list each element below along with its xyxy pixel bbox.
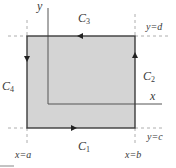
bound-label-bottom: y=c: [147, 132, 163, 142]
curve-label-c1: C1: [78, 140, 90, 154]
curve-label-c4: C4: [2, 80, 14, 94]
c1-subscript: 1: [86, 145, 90, 154]
x-axis-label: x: [150, 90, 155, 102]
c2-subscript: 2: [151, 75, 155, 84]
c4-letter: C: [2, 79, 10, 93]
c2-letter: C: [143, 69, 151, 83]
bound-label-right: x=b: [125, 150, 141, 160]
c3-subscript: 3: [86, 17, 90, 26]
y-axis-label: y: [37, 0, 42, 12]
curve-label-c2: C2: [143, 70, 155, 84]
bound-label-top: y=d: [146, 22, 162, 32]
c3-letter: C: [78, 11, 86, 25]
bound-label-left: x=a: [15, 150, 31, 160]
c4-subscript: 4: [10, 85, 14, 94]
curve-label-c3: C3: [78, 12, 90, 26]
c1-letter: C: [78, 139, 86, 153]
shaded-region: [27, 36, 135, 128]
